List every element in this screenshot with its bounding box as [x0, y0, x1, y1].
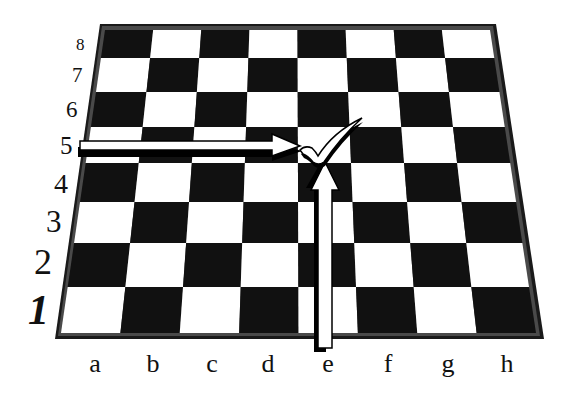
square-f2: [354, 243, 413, 287]
square-c2: [183, 243, 242, 287]
square-d2: [241, 243, 299, 287]
square-h2: [466, 243, 529, 287]
square-e7: [298, 58, 349, 92]
square-g1: [414, 287, 477, 333]
board-squares: [61, 30, 536, 333]
rank-label-1: 1: [28, 287, 49, 333]
square-f8: [346, 30, 396, 58]
rank-label-2: 2: [34, 242, 52, 282]
square-a1: [61, 287, 125, 333]
square-c1: [180, 287, 241, 333]
square-h5: [453, 127, 510, 163]
square-f7: [347, 58, 399, 92]
square-g2: [410, 243, 471, 287]
file-labels: abcdefgh: [89, 349, 513, 378]
rank-label-5: 5: [60, 132, 73, 159]
chessboard-diagram: 12345678 abcdefgh: [0, 0, 575, 402]
file-label-e: e: [322, 349, 334, 378]
rank-label-6: 6: [66, 97, 78, 122]
file-label-f: f: [384, 349, 393, 378]
rank-label-3: 3: [46, 204, 62, 239]
square-b2: [125, 243, 186, 287]
file-label-a: a: [89, 349, 101, 378]
file-label-d: d: [262, 349, 275, 378]
square-a2: [68, 243, 130, 287]
rank-label-7: 7: [72, 63, 83, 87]
square-h7: [445, 58, 499, 92]
square-e8: [298, 30, 347, 58]
square-g3: [407, 202, 466, 243]
square-d8: [248, 30, 297, 58]
square-d6: [246, 92, 298, 127]
square-c3: [186, 202, 243, 243]
square-e6: [298, 92, 350, 127]
square-f1: [356, 287, 417, 333]
square-a7: [96, 58, 150, 92]
square-c6: [194, 92, 247, 127]
square-g6: [399, 92, 453, 127]
file-label-h: h: [501, 349, 514, 378]
square-h1: [471, 287, 536, 333]
square-b4: [135, 163, 192, 202]
square-g7: [396, 58, 449, 92]
square-b1: [120, 287, 183, 333]
square-c8: [199, 30, 249, 58]
square-b8: [150, 30, 201, 58]
square-d3: [242, 202, 298, 243]
square-d7: [247, 58, 297, 92]
square-g4: [404, 163, 462, 202]
rank-label-8: 8: [76, 35, 85, 54]
square-c4: [189, 163, 245, 202]
square-d1: [239, 287, 298, 333]
square-c7: [197, 58, 249, 92]
square-h3: [462, 202, 523, 243]
square-a8: [101, 30, 153, 58]
square-h8: [442, 30, 494, 58]
rank-label-4: 4: [54, 168, 68, 199]
square-f3: [353, 202, 411, 243]
square-d4: [244, 163, 299, 202]
file-label-b: b: [147, 349, 160, 378]
square-b3: [130, 202, 189, 243]
file-label-g: g: [442, 349, 455, 378]
square-g8: [394, 30, 445, 58]
square-h4: [457, 163, 516, 202]
square-b6: [143, 92, 197, 127]
file-label-c: c: [206, 349, 218, 378]
square-a4: [80, 163, 139, 202]
square-f4: [351, 163, 407, 202]
square-f5: [350, 127, 405, 163]
square-b7: [146, 58, 199, 92]
square-a6: [91, 92, 147, 127]
square-h6: [449, 92, 505, 127]
square-g5: [401, 127, 457, 163]
square-a3: [74, 202, 134, 243]
